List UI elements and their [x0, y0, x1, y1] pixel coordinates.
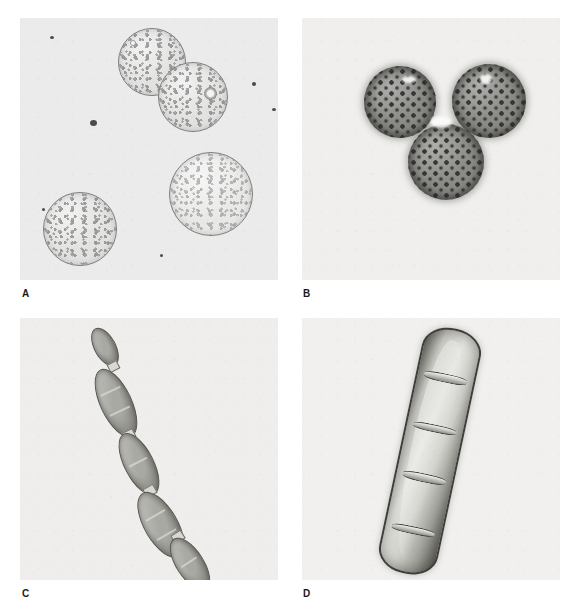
- septum: [145, 509, 165, 522]
- debris-speck: [272, 108, 276, 111]
- figure-plate: A B: [0, 0, 576, 612]
- panel-d-image: [302, 318, 560, 580]
- panel-b-image: [302, 18, 560, 280]
- surface-highlight: [402, 76, 416, 83]
- septum: [100, 386, 121, 397]
- debris-speck: [160, 254, 163, 257]
- septum: [181, 557, 197, 568]
- panel-label-b: B: [303, 289, 310, 299]
- chain-cell-2: [86, 363, 146, 444]
- macroconidium: [375, 322, 486, 579]
- panel-d-micrograph: [302, 318, 560, 580]
- rim-shading: [364, 66, 436, 138]
- debris-speck: [42, 208, 45, 211]
- cytoplasm-granules: [44, 193, 116, 265]
- debris-speck: [50, 36, 54, 39]
- chain-cell-3: [110, 427, 168, 501]
- cytoplasm-granules: [170, 153, 252, 235]
- panel-label-d: D: [303, 589, 310, 599]
- film-grain: [20, 318, 278, 580]
- surface-highlight: [480, 74, 492, 84]
- spherical-cell-4: [43, 192, 117, 266]
- septum: [109, 406, 130, 417]
- central-junction-gap: [430, 116, 452, 128]
- pitted-spore-lower: [408, 124, 484, 200]
- cytoplasm-granules: [159, 63, 227, 131]
- spherical-cell-2: [158, 62, 228, 132]
- septum: [129, 457, 148, 468]
- rim-shading: [408, 124, 484, 200]
- pitted-spore-upper-left: [364, 66, 436, 138]
- panel-c-image: [20, 318, 278, 580]
- panel-label-c: C: [22, 589, 29, 599]
- panel-b-micrograph: [302, 18, 560, 280]
- spherical-cell-3: [169, 152, 253, 236]
- inclusion-speck: [130, 40, 136, 46]
- panel-label-a: A: [22, 289, 29, 299]
- refractile-vacuole: [204, 87, 217, 100]
- panel-a-image: [20, 18, 278, 280]
- panel-c-micrograph: [20, 318, 278, 580]
- debris-speck: [252, 82, 256, 86]
- debris-speck: [90, 120, 97, 126]
- panel-a-micrograph: [20, 18, 278, 280]
